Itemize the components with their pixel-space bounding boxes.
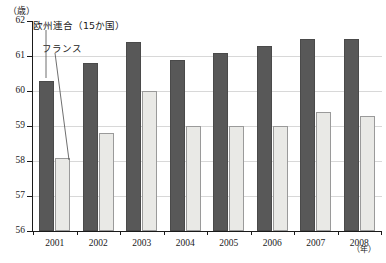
y-axis-tick-label: 60 [1, 85, 25, 95]
bar-france-2003 [142, 91, 157, 231]
bar-france-2004 [186, 126, 201, 231]
bar-eu15-2003 [126, 42, 141, 231]
x-axis-tick-origin [33, 231, 34, 235]
bar-france-2006 [273, 126, 288, 231]
bar-eu15-2004 [170, 60, 185, 232]
y-axis-tick-label-wrap: 62 [0, 15, 25, 26]
x-axis-tick [381, 231, 382, 235]
bar-france-2008 [360, 116, 375, 232]
bar-france-2005 [229, 126, 244, 231]
bar-eu15-2007 [300, 39, 315, 232]
bar-eu15-2002 [83, 63, 98, 231]
y-axis-tick-label-wrap: 58 [0, 155, 25, 166]
bar-france-2007 [316, 112, 331, 231]
x-axis-tick-label-2001: 2001 [32, 238, 78, 248]
y-axis-tick-label-wrap: 59 [0, 120, 25, 131]
y-axis-tick-label-wrap: 61 [0, 50, 25, 61]
y-axis-tick-label-wrap: 60 [0, 85, 25, 96]
x-axis-tick-label-2007: 2007 [293, 238, 339, 248]
x-axis-tick-label-2003: 2003 [119, 238, 165, 248]
annotation-france-label: フランス [42, 41, 82, 55]
y-axis-tick-label: 59 [1, 120, 25, 130]
x-axis-tick-label-2002: 2002 [75, 238, 121, 248]
y-axis-tick-label: 61 [1, 50, 25, 60]
x-axis-tick [294, 231, 295, 235]
y-axis-tick-label: 62 [1, 15, 25, 25]
bar-france-2001 [55, 158, 70, 232]
x-axis-tick [164, 231, 165, 235]
x-axis-tick [251, 231, 252, 235]
bar-france-2002 [99, 133, 114, 231]
y-axis-tick-label: 57 [1, 190, 25, 200]
bar-eu15-2001 [39, 81, 54, 232]
bar-chart: （歳） 62616059585756 200120022003200420052… [0, 0, 386, 263]
x-axis-tick [207, 231, 208, 235]
x-axis-tick [77, 231, 78, 235]
y-axis-tick-label-wrap: 56 [0, 225, 25, 236]
y-axis-tick-label-wrap: 57 [0, 190, 25, 201]
bar-eu15-2006 [257, 46, 272, 232]
x-axis-tick-label-2005: 2005 [206, 238, 252, 248]
bar-eu15-2008 [344, 39, 359, 232]
x-axis-tick-label-2006: 2006 [249, 238, 295, 248]
x-axis-tick-label-2004: 2004 [162, 238, 208, 248]
x-axis-unit-label: （年） [352, 243, 376, 254]
annotation-eu-label: 欧州連合（15か国） [33, 18, 125, 32]
plot-area [33, 21, 381, 231]
y-axis-tick-label: 58 [1, 155, 25, 165]
x-axis-tick [120, 231, 121, 235]
x-axis-tick [338, 231, 339, 235]
y-axis-tick-label: 56 [1, 225, 25, 235]
bar-eu15-2005 [213, 53, 228, 232]
